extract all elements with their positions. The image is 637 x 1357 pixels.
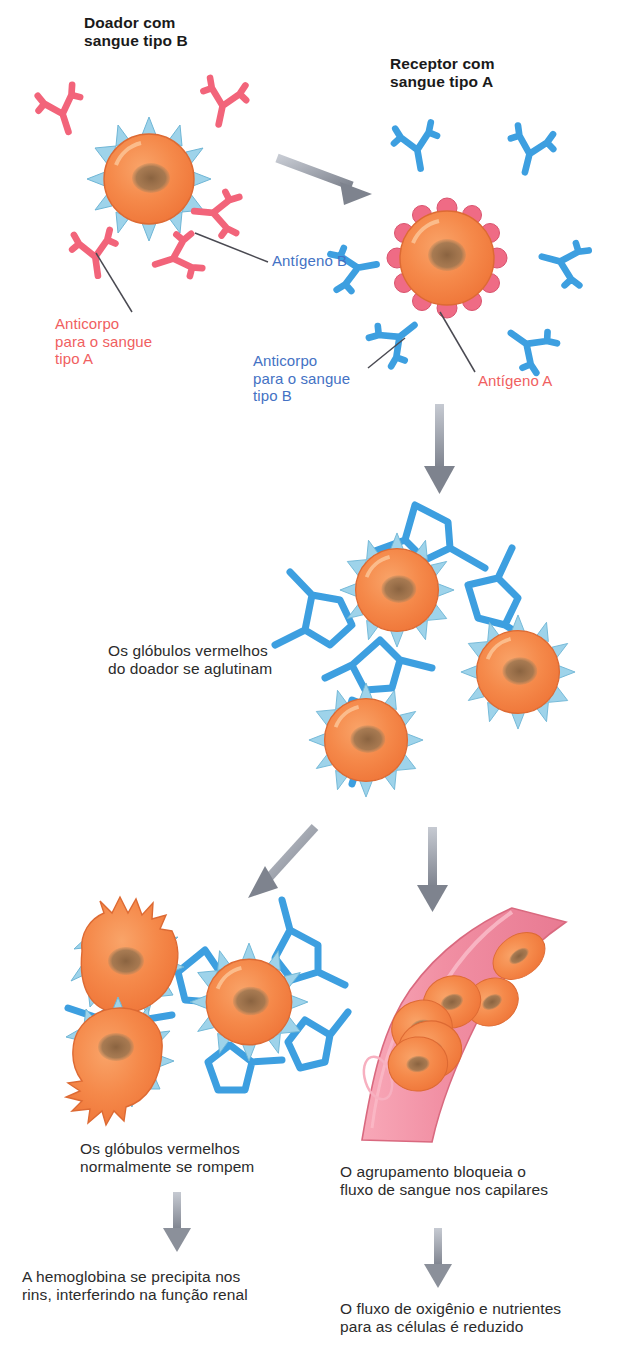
kidney-step-label: A hemoglobina se precipita nos rins, int…	[22, 1268, 248, 1305]
ruptured-red-blood-cell	[71, 897, 184, 1019]
antibody-a-label: Anticorpo para o sangue tipo A	[55, 315, 152, 368]
arrow-to-rupture	[248, 827, 315, 898]
antigen-b-label: Antígeno B	[272, 252, 347, 270]
arrow-to-agglutination	[424, 404, 455, 494]
leader-line-antibody-a	[96, 253, 132, 312]
arrow-to-kidney	[163, 1192, 191, 1252]
arrow-to-oxygen	[424, 1228, 452, 1288]
blood-transfusion-diagram: Doador com sangue tipo B Receptor com sa…	[0, 0, 637, 1357]
leader-line-antigen-b	[195, 233, 268, 262]
antigen-a-label: Antígeno A	[478, 372, 552, 390]
antibody-b-label: Anticorpo para o sangue tipo B	[253, 352, 350, 405]
agglutination-step-label: Os glóbulos vermelhos do doador se aglut…	[108, 642, 272, 679]
donor-red-blood-cell	[87, 117, 211, 241]
rupture-step-label: Os glóbulos vermelhos normalmente se rom…	[80, 1140, 254, 1177]
blockage-step-label: O agrupamento bloqueia o fluxo de sangue…	[340, 1163, 548, 1200]
arrow-to-capillary	[417, 827, 448, 912]
donor-title: Doador com sangue tipo B	[84, 14, 188, 51]
recipient-title: Receptor com sangue tipo A	[390, 55, 495, 92]
arrow-donor-to-recipient	[277, 158, 372, 205]
leader-line-antigen-a	[440, 312, 475, 372]
recipient-red-blood-cell	[387, 198, 507, 318]
oxygen-step-label: O fluxo de oxigênio e nutrientes para as…	[340, 1300, 561, 1337]
